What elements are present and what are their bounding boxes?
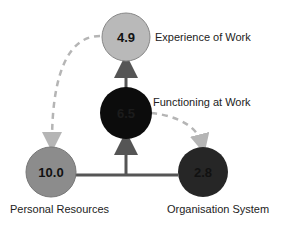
node-label: Organisation System bbox=[167, 203, 269, 215]
node-label: Experience of Work bbox=[155, 31, 251, 43]
node-label: Functioning at Work bbox=[153, 96, 251, 108]
node-value: 10.0 bbox=[38, 165, 63, 180]
node-value: 2.8 bbox=[194, 165, 212, 180]
dashed-arrow-experience-to-personal bbox=[52, 36, 100, 142]
node-organisation-system: 2.8 Organisation System bbox=[167, 147, 269, 215]
node-personal-resources: 10.0 Personal Resources bbox=[10, 147, 110, 215]
dashed-arrow-functioning-to-organisation bbox=[151, 113, 202, 144]
node-experience-of-work: 4.9 Experience of Work bbox=[102, 13, 251, 61]
node-functioning-at-work: 6.5 Functioning at Work bbox=[100, 87, 251, 139]
wellbeing-diagram: 4.9 Experience of Work 6.5 Functioning a… bbox=[0, 0, 281, 225]
node-value: 6.5 bbox=[117, 106, 135, 121]
node-label: Personal Resources bbox=[10, 203, 110, 215]
node-value: 4.9 bbox=[117, 30, 135, 45]
